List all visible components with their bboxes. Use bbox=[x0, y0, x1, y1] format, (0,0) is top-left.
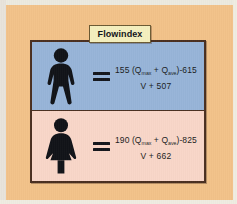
page-edge-right bbox=[233, 0, 237, 204]
female-equals-sign bbox=[90, 142, 112, 151]
male-formula-row: 155 (Qmax + Qave)-615 V + 507 bbox=[32, 42, 204, 111]
page-edge-bottom bbox=[0, 200, 237, 204]
female-numerator-prefix: 190 (Q bbox=[115, 135, 142, 145]
female-formula-row: 190 (Qmax + Qave)-825 V + 662 bbox=[32, 111, 204, 181]
male-fraction: 155 (Qmax + Qave)-615 V + 507 bbox=[112, 60, 200, 92]
female-numerator-suffix: )-825 bbox=[176, 135, 196, 145]
male-numerator-prefix: 155 (Q bbox=[115, 65, 142, 75]
female-numerator: 190 (Qmax + Qave)-825 bbox=[112, 135, 200, 147]
male-numerator: 155 (Qmax + Qave)-615 bbox=[112, 65, 200, 77]
female-formula: 190 (Qmax + Qave)-825 V + 662 bbox=[112, 130, 206, 162]
flowindex-figure: 155 (Qmax + Qave)-615 V + 507 bbox=[0, 0, 237, 204]
formula-panel: 155 (Qmax + Qave)-615 V + 507 bbox=[30, 40, 206, 183]
equals-icon bbox=[93, 142, 110, 151]
male-numerator-sub-ave: ave bbox=[168, 70, 176, 76]
male-denominator: V + 507 bbox=[140, 78, 171, 91]
male-pictogram-icon bbox=[41, 47, 81, 105]
male-numerator-sub-max: max bbox=[142, 70, 152, 76]
equals-icon bbox=[93, 72, 110, 81]
male-equals-sign bbox=[90, 72, 112, 81]
page-title: Flowindex bbox=[98, 29, 143, 39]
female-denominator: V + 662 bbox=[140, 148, 171, 161]
male-numerator-suffix: )-615 bbox=[176, 65, 196, 75]
male-numerator-mid: + Q bbox=[151, 65, 168, 75]
male-pictogram-cell bbox=[32, 47, 90, 105]
page-edge-top bbox=[0, 0, 237, 5]
female-pictogram-icon bbox=[41, 117, 81, 175]
female-numerator-sub-max: max bbox=[142, 140, 152, 146]
female-pictogram-cell bbox=[32, 117, 90, 175]
flowindex-title-box: Flowindex bbox=[89, 25, 151, 43]
female-fraction: 190 (Qmax + Qave)-825 V + 662 bbox=[112, 130, 200, 162]
male-formula: 155 (Qmax + Qave)-615 V + 507 bbox=[112, 60, 206, 92]
female-numerator-sub-ave: ave bbox=[168, 140, 176, 146]
page-edge-left bbox=[0, 0, 6, 204]
female-numerator-mid: + Q bbox=[151, 135, 168, 145]
